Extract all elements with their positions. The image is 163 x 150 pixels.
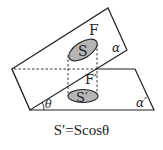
label-s: S: [78, 43, 88, 59]
label-s-prime: S′: [76, 90, 88, 105]
angle-arc: [42, 102, 44, 110]
label-f-prime: F′: [85, 72, 97, 87]
label-alpha-prime: α′: [136, 96, 147, 110]
label-theta: θ: [45, 98, 52, 111]
label-alpha: α: [112, 41, 120, 55]
formula-caption: S′=Scosθ: [0, 122, 163, 139]
label-f: F: [89, 22, 99, 38]
